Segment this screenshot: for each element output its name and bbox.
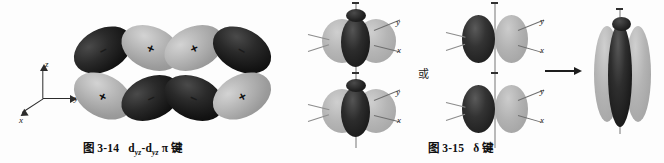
orbital-lobe-dark <box>462 85 495 133</box>
clover-lobes <box>322 80 396 142</box>
axis-label-y: y <box>396 88 400 97</box>
axis-tick-top <box>616 8 623 10</box>
transform-arrow <box>545 66 587 76</box>
caption-figure-3-14: 图 3-14dyz-dyz π 键 <box>83 139 183 157</box>
figure-3-15: y x y x 或 <box>300 0 664 163</box>
axis-label-y: y <box>540 87 544 96</box>
delta-orbital-pair-top: y x <box>448 8 548 70</box>
axis-tick-bottom <box>352 72 359 74</box>
figure-3-14: z y x − + + − + − <box>0 0 332 163</box>
delta-orbital-clover-top: y x <box>314 8 404 70</box>
delta-orbital-pair-bottom: y x <box>448 78 548 140</box>
axis-tick-bottom <box>491 72 498 74</box>
merged-lobe-center <box>608 23 632 127</box>
axis-label-y: y <box>540 17 544 26</box>
caption-figure-3-15: 图 3-15δ 键 <box>428 139 494 155</box>
delta-orbital-clover-bottom: y x <box>314 78 404 140</box>
orbital-lobe-dark <box>462 15 495 63</box>
axis-label-x: x <box>397 116 401 125</box>
merged-lobe-top-cap <box>612 17 631 31</box>
axis-label-x: x <box>19 116 23 125</box>
arrow-head <box>574 67 582 75</box>
clover-lobes <box>322 10 396 72</box>
orbital-lobe-light <box>495 15 528 63</box>
axis-label-z: z <box>45 60 49 69</box>
two-lobe-group <box>462 15 528 67</box>
merged-delta-orbital <box>588 14 658 134</box>
caption-number: 图 3-14 <box>83 142 119 154</box>
two-lobe-group <box>462 85 528 137</box>
clover-lobe-top-cap <box>346 9 366 22</box>
clover-lobe-center <box>341 87 370 137</box>
orbital-lobe-light <box>495 85 528 133</box>
or-label: 或 <box>418 65 429 81</box>
caption-bond-type: δ 键 <box>473 142 493 154</box>
caption-bond-type: π 键 <box>162 142 183 154</box>
axis-label-x: x <box>397 46 401 55</box>
clover-lobe-center <box>341 17 370 67</box>
axis-label-x: x <box>540 116 544 125</box>
axis-z <box>42 69 43 99</box>
axis-tick-top <box>491 2 498 4</box>
arrow-shaft <box>545 70 575 72</box>
axis-tick-top <box>352 2 359 4</box>
caption-orbital-1: d <box>128 142 135 154</box>
axis-label-x: x <box>540 46 544 55</box>
clover-lobe-top-cap <box>346 79 366 92</box>
caption-number: 图 3-15 <box>428 142 464 154</box>
axis-label-y: y <box>396 18 400 27</box>
caption-subscript-2: yz <box>152 148 159 157</box>
caption-separator: -d <box>141 142 152 154</box>
figure-page: z y x − + + − + − <box>0 0 664 163</box>
